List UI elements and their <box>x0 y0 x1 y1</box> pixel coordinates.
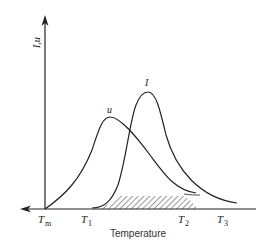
tick-label-tm: T m <box>38 213 52 228</box>
svg-text:T: T <box>178 213 185 225</box>
x-axis-label: Temperature <box>110 228 167 239</box>
curve-I-label: I <box>144 77 149 88</box>
svg-text:3: 3 <box>224 219 228 228</box>
svg-text:T: T <box>81 213 88 225</box>
svg-text:2: 2 <box>185 219 189 228</box>
curve-u <box>45 117 196 209</box>
y-axis-label: I,u <box>31 37 42 49</box>
svg-text:m: m <box>45 219 52 228</box>
svg-text:1: 1 <box>88 219 92 228</box>
tick-label-t2: T 2 <box>178 213 189 228</box>
tick-label-t3: T 3 <box>217 213 228 228</box>
curve-u-tail <box>184 194 200 195</box>
svg-text:T: T <box>217 213 224 225</box>
temperature-nucleation-growth-diagram: I,u u I T m T 1 T 2 T 3 Temperature <box>0 0 268 243</box>
curve-I <box>92 92 237 208</box>
hatched-overlap-region <box>100 196 196 209</box>
tick-label-t1: T 1 <box>81 213 92 228</box>
svg-text:T: T <box>38 213 45 225</box>
curve-u-label: u <box>107 104 112 115</box>
